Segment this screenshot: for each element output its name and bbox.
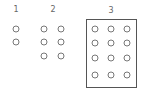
circle-icon [58,39,65,46]
circle-icon [41,39,48,46]
circle-icon [124,55,131,62]
circle-icon [108,26,115,33]
circle-icon [124,72,131,79]
group-label-2: 2 [50,6,55,14]
group-label-1: 1 [13,6,18,14]
group-label-3: 3 [108,7,113,15]
circle-icon [92,55,99,62]
circle-icon [92,40,99,47]
circle-icon [92,72,99,79]
circle-icon [124,26,131,33]
circle-icon [13,39,20,46]
circle-icon [108,40,115,47]
circle-icon [108,72,115,79]
circle-icon [58,53,65,60]
circle-icon [13,26,20,33]
circle-icon [41,53,48,60]
circle-icon [58,26,65,33]
circle-icon [41,26,48,33]
circle-icon [124,40,131,47]
circle-icon [92,26,99,33]
circle-icon [108,55,115,62]
